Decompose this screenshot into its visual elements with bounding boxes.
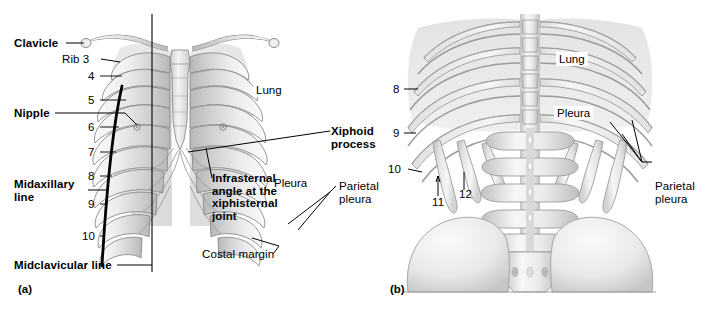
rib-number-10: 10 <box>82 230 95 243</box>
anatomy-figure: Clavicle Rib 3 Nipple Midaxillary line M… <box>0 0 701 312</box>
posterior-rib-number-8: 8 <box>393 83 400 96</box>
label-midaxillary-line: Midaxillary line <box>14 178 75 203</box>
posterior-rib-number-10: 10 <box>388 163 401 176</box>
label-nipple: Nipple <box>14 107 50 120</box>
panel-a-anterior-thorax: Clavicle Rib 3 Nipple Midaxillary line M… <box>0 0 360 312</box>
posterior-rib-number-12: 12 <box>459 188 472 201</box>
label-rib-3: Rib 3 <box>62 53 89 66</box>
posterior-rib-number-11: 11 <box>432 196 444 209</box>
label-costal-margin: Costal margin <box>202 248 274 261</box>
panel-b-mark: (b) <box>390 283 405 295</box>
label-midclavicular-line: Midclavicular line <box>14 259 112 272</box>
rib-number-7: 7 <box>88 146 95 159</box>
rib-number-5: 5 <box>88 94 95 107</box>
panel-a-mark: (a) <box>18 283 32 295</box>
label-parietal-pleura-posterior: Parietal pleura <box>655 180 695 205</box>
panel-b-posterior-thorax: Lung Pleura 8 9 10 11 12 Parietal pleura… <box>360 0 701 312</box>
posterior-rib-number-9: 9 <box>393 127 400 140</box>
rib-number-9: 9 <box>88 198 95 211</box>
rib-number-4: 4 <box>88 70 95 83</box>
label-infrasternal-angle: Infrasternal angle at the xiphisternal j… <box>212 172 278 222</box>
callout-lung-anterior: Lung <box>253 83 285 97</box>
rib-number-6: 6 <box>88 121 95 134</box>
callout-pleura-posterior: Pleura <box>554 106 593 120</box>
label-clavicle: Clavicle <box>14 37 58 50</box>
rib-number-8: 8 <box>88 170 95 183</box>
posterior-thorax-illustration <box>360 0 701 312</box>
callout-lung-posterior: Lung <box>556 52 588 66</box>
